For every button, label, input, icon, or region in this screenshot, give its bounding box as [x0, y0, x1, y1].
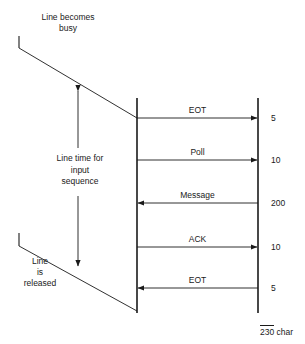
message-label: ACK: [137, 234, 258, 245]
timing-diagram: Line becomes busy Line time for input se…: [0, 0, 305, 344]
line-released-label-line2: is: [2, 267, 78, 278]
line-busy-label-line1: Line becomes: [18, 12, 118, 23]
message-char-count: 10: [271, 155, 280, 166]
message-label: Message: [137, 190, 258, 201]
message-char-count: 5: [271, 283, 276, 294]
line-time-label-line2: input: [36, 165, 124, 177]
message-char-count: 5: [271, 113, 276, 124]
line-released-label: Line is released: [2, 256, 78, 289]
message-label: EOT: [137, 105, 258, 116]
line-time-label-line1: Line time for: [36, 153, 124, 165]
line-busy-label: Line becomes busy: [18, 12, 118, 34]
line-released-label-line1: Line: [2, 256, 78, 267]
line-released-label-line3: released: [2, 278, 78, 289]
total-characters: 230 char: [260, 325, 293, 337]
message-label: Poll: [137, 147, 258, 158]
message-label: EOT: [137, 275, 258, 286]
total-value: 230: [260, 325, 274, 337]
line-busy-label-line2: busy: [18, 23, 118, 34]
line-time-label: Line time for input sequence: [34, 152, 126, 189]
message-arrows: [137, 118, 258, 288]
line-time-label-line3: sequence: [36, 176, 124, 188]
message-char-count: 200: [271, 198, 285, 209]
message-char-count: 10: [271, 242, 280, 253]
total-unit: char: [277, 327, 294, 337]
